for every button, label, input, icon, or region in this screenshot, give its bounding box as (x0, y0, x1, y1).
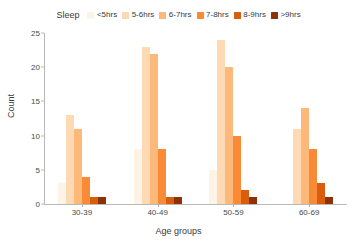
legend-swatch-icon (234, 12, 241, 19)
x-axis-tick-label: 30-39 (52, 208, 112, 217)
legend-swatch-icon (122, 12, 129, 19)
legend-title: Sleep (56, 10, 79, 20)
bar[interactable] (58, 183, 66, 204)
y-axis-tick-mark (41, 135, 44, 136)
bar[interactable] (209, 170, 217, 204)
bar[interactable] (293, 129, 301, 204)
bar[interactable] (325, 197, 333, 204)
bar[interactable] (225, 67, 233, 204)
chart-legend: Sleep <5hrs5-6hrs6-7hrs7-8hrs8-9hrs>9hrs (0, 10, 357, 20)
y-axis-tick-mark (41, 101, 44, 102)
x-axis-tick-mark (158, 204, 159, 207)
bar[interactable] (82, 177, 90, 204)
legend-swatch-icon (197, 12, 204, 19)
legend-item-label: 6-7hrs (169, 11, 192, 19)
x-axis-tick-mark (233, 204, 234, 207)
bar[interactable] (98, 197, 106, 204)
bar[interactable] (233, 136, 241, 204)
y-axis-tick-mark (41, 169, 44, 170)
bar[interactable] (150, 54, 158, 204)
y-axis-tick-mark (41, 33, 44, 34)
x-axis-tick-label: 60-69 (279, 208, 339, 217)
legend-item-label: <5hrs (97, 11, 117, 19)
bar[interactable] (66, 115, 74, 204)
bar-group-30-39 (58, 33, 106, 204)
legend-item-5hrs[interactable]: <5hrs (87, 11, 117, 19)
y-axis-tick-mark (41, 204, 44, 205)
bar-chart: Sleep <5hrs5-6hrs6-7hrs7-8hrs8-9hrs>9hrs… (0, 0, 357, 248)
bar[interactable] (134, 149, 142, 204)
legend-swatch-icon (159, 12, 166, 19)
legend-item-label: 8-9hrs (243, 11, 266, 19)
legend-item-8-9hrs[interactable]: 8-9hrs (234, 11, 266, 19)
x-axis-tick-label: 50-59 (203, 208, 263, 217)
bar[interactable] (217, 40, 225, 204)
legend-swatch-icon (271, 12, 278, 19)
legend-item-7-8hrs[interactable]: 7-8hrs (197, 11, 229, 19)
bar[interactable] (142, 47, 150, 204)
legend-item-9hrs[interactable]: >9hrs (271, 11, 301, 19)
bar[interactable] (90, 197, 98, 204)
plot-area: 0510152025 (44, 33, 347, 204)
bar[interactable] (309, 149, 317, 204)
bar-group-50-59 (209, 33, 257, 204)
bar[interactable] (317, 183, 325, 204)
bar[interactable] (74, 129, 82, 204)
bar[interactable] (301, 108, 309, 204)
legend-item-5-6hrs[interactable]: 5-6hrs (122, 11, 154, 19)
legend-item-label: >9hrs (280, 11, 300, 19)
bar[interactable] (158, 149, 166, 204)
x-axis-tick-mark (82, 204, 83, 207)
y-axis-label: Count (6, 94, 16, 118)
bar-group-60-69 (285, 33, 333, 204)
x-axis-line (44, 204, 347, 205)
bar[interactable] (166, 197, 174, 204)
legend-item-6-7hrs[interactable]: 6-7hrs (159, 11, 191, 19)
legend-swatch-icon (87, 12, 94, 19)
bar-group-40-49 (134, 33, 182, 204)
bar[interactable] (174, 197, 182, 204)
x-axis-tick-label: 40-49 (128, 208, 188, 217)
legend-item-label: 5-6hrs (132, 11, 155, 19)
y-axis-tick-mark (41, 67, 44, 68)
x-axis-tick-mark (309, 204, 310, 207)
bar[interactable] (241, 190, 249, 204)
bar[interactable] (249, 197, 257, 204)
x-axis-label: Age groups (0, 226, 357, 236)
legend-item-label: 7-8hrs (206, 11, 229, 19)
